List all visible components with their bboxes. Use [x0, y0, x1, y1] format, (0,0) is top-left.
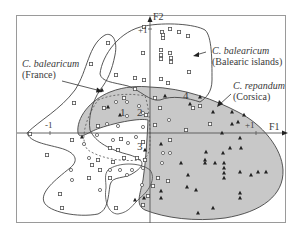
y-axis-label: F2 [153, 11, 164, 22]
pca-scatter-plot: F2 F1 -1 +1 +1 1 2 3 4 C. balearicum (Fr… [0, 0, 298, 236]
origin: (Corsica) [233, 91, 270, 102]
origin: (Balearic islands) [212, 56, 282, 67]
species-name: C. repandum [233, 80, 285, 91]
x-axis-label: F1 [269, 121, 280, 132]
point-label-4: 4 [183, 90, 189, 101]
plot-graphics [0, 0, 298, 236]
label-repandum-corsica: C. repandum (Corsica) [233, 80, 285, 102]
point-label-3: 3 [137, 141, 143, 152]
species-name: C. balearicum [22, 58, 79, 69]
point-label-2: 2 [137, 107, 143, 118]
x-tick-minus-1: -1 [45, 120, 53, 131]
y-tick-plus-1: +1 [138, 25, 148, 36]
label-balearicum-france: C. balearicum (France) [22, 58, 79, 80]
species-name: C. balearicum [212, 45, 269, 56]
x-tick-plus-1: +1 [245, 120, 255, 131]
label-balearicum-balearic: C. balearicum (Balearic islands) [212, 45, 282, 67]
point-label-1: 1 [120, 107, 126, 118]
arrow-france [62, 81, 101, 91]
origin: (France) [22, 69, 56, 80]
